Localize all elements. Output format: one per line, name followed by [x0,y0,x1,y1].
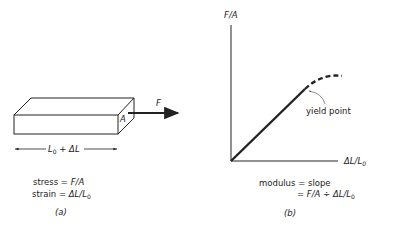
stress-strain-figure: A F L0 + ΔL stress = F/A strain = ΔL/L0 … [0,0,403,237]
x-axis-label: ΔL/L0 [343,156,366,167]
panel-a: A F L0 + ΔL stress = F/A strain = ΔL/L0 … [14,98,178,217]
stress-formula: stress = F/A [33,177,84,187]
modulus-line-2: = F/A ÷ ΔL/L0 [297,189,355,200]
yield-point-pointer [309,91,325,104]
y-axis-label: F/A [224,10,238,20]
caption-b: (b) [284,208,296,218]
bar-specimen [14,98,134,134]
plastic-region-curve [305,76,342,89]
bar-top-face [14,98,134,115]
yield-point-label: yield point [306,106,351,116]
force-label: F [156,98,161,108]
caption-a: (a) [55,207,67,217]
elastic-region-line [231,89,305,161]
length-label: L0 + ΔL [48,144,80,155]
panel-b: F/A ΔL/L0 yield point modulus = slope = … [224,10,366,218]
bar-front-face [14,115,118,134]
strain-formula: strain = ΔL/L0 [32,189,91,200]
modulus-line-1: modulus = slope [259,178,331,188]
area-label: A [119,114,126,124]
